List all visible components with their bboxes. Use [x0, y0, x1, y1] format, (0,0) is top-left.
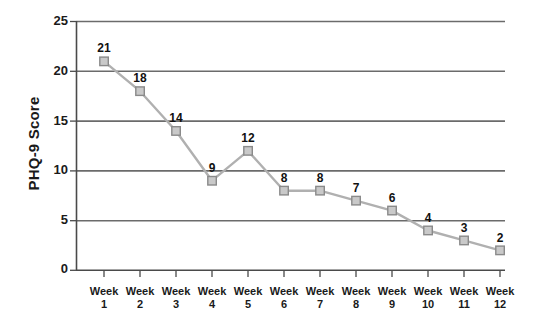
x-tick-week-word: Week — [90, 285, 119, 297]
x-tick-week-word: Week — [378, 285, 407, 297]
x-tick-week-word: Week — [198, 285, 227, 297]
point-label-week-4: 9 — [199, 161, 225, 175]
point-label-week-5: 12 — [235, 131, 261, 145]
x-tick-week-word: Week — [126, 285, 155, 297]
point-label-week-9: 6 — [379, 191, 405, 205]
data-point-week-8 — [352, 196, 361, 205]
point-label-week-7: 8 — [307, 171, 333, 185]
series-markers — [100, 57, 505, 255]
data-point-week-1 — [100, 57, 109, 66]
data-point-week-4 — [208, 177, 217, 186]
data-point-week-11 — [460, 236, 469, 245]
data-point-week-7 — [316, 186, 325, 195]
y-axis-ticks — [70, 22, 76, 271]
x-tick-week-number: 12 — [478, 298, 522, 311]
point-label-week-11: 3 — [451, 221, 477, 235]
data-point-week-5 — [244, 147, 253, 156]
x-tick-week-word: Week — [450, 285, 479, 297]
x-tick-week-word: Week — [162, 285, 191, 297]
point-label-week-1: 21 — [91, 41, 117, 55]
data-point-week-12 — [496, 246, 505, 255]
data-point-week-9 — [388, 206, 397, 215]
phq9-line-chart: PHQ-9 Score 25 20 15 10 5 0 — [0, 0, 538, 333]
x-tick-week-word: Week — [270, 285, 299, 297]
point-label-week-12: 2 — [487, 231, 513, 245]
x-tick-week-word: Week — [342, 285, 371, 297]
x-axis-ticks — [104, 271, 500, 278]
x-tick-week-word: Week — [414, 285, 443, 297]
point-label-week-2: 18 — [127, 71, 153, 85]
data-point-week-3 — [172, 127, 181, 136]
x-tick-week-word: Week — [234, 285, 263, 297]
x-tick-week-word: Week — [486, 285, 515, 297]
point-label-week-6: 8 — [271, 171, 297, 185]
x-tick-label-week-12: Week 12 — [478, 285, 522, 311]
point-label-week-3: 14 — [163, 111, 189, 125]
data-point-week-2 — [136, 87, 145, 96]
data-point-week-10 — [424, 226, 433, 235]
point-label-week-10: 4 — [415, 211, 441, 225]
data-point-week-6 — [280, 186, 289, 195]
point-label-week-8: 7 — [343, 181, 369, 195]
x-tick-week-word: Week — [306, 285, 335, 297]
plot-area — [0, 0, 538, 333]
